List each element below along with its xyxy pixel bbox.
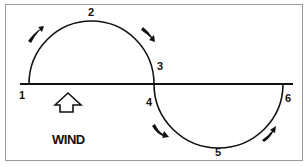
point-label-1: 1 — [19, 90, 25, 101]
curved-arrow-icon — [141, 27, 155, 42]
path-diagram — [0, 0, 307, 167]
point-label-3: 3 — [157, 61, 163, 72]
up-arrow-outline-icon — [55, 93, 81, 112]
point-label-5: 5 — [215, 147, 221, 158]
point-label-2: 2 — [88, 7, 94, 18]
curved-arrow-icon — [28, 26, 44, 43]
upper-arc — [29, 21, 154, 84]
wind-label: WIND — [52, 132, 85, 147]
lower-arc — [154, 84, 283, 148]
point-label-6: 6 — [285, 93, 291, 104]
point-label-4: 4 — [146, 97, 152, 108]
curved-arrow-icon — [152, 124, 169, 138]
